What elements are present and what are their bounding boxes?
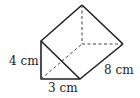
top-edge	[41, 5, 82, 41]
base-label: 3 cm	[48, 82, 78, 94]
back-hypotenuse-edge	[82, 5, 123, 44]
height-label: 4 cm	[9, 55, 39, 67]
front-triangle-face	[41, 41, 80, 79]
length-label: 8 cm	[104, 64, 134, 76]
